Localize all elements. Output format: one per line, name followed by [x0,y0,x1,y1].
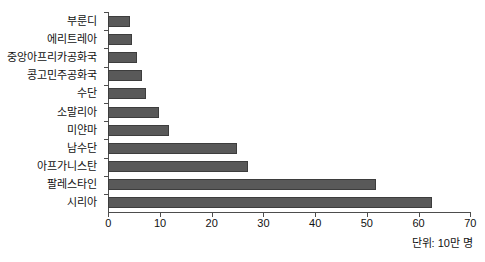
x-axis-tick [470,212,471,217]
y-axis-label: 수단 [0,85,103,103]
x-axis-tick-label: 20 [206,218,218,229]
x-axis-tick-label: 60 [412,218,424,229]
bar-chart: 부룬디 에리트레아 중앙아프리카공화국 콩고민주공화국 수단 소말리아 미얀마 … [0,0,485,262]
bar-row [108,139,470,157]
x-axis-tick-label: 40 [309,218,321,229]
bar-row [108,194,470,212]
bar-row [108,30,470,48]
y-axis-category-labels: 부룬디 에리트레아 중앙아프리카공화국 콩고민주공화국 수단 소말리아 미얀마 … [0,12,103,212]
bar [108,179,376,190]
plot-area [108,12,470,212]
bar-row [108,121,470,139]
x-axis-tick-label: 0 [105,218,111,229]
bar-rows [108,12,470,212]
bar [108,161,248,172]
bar-row [108,12,470,30]
y-axis-label: 팔레스타인 [0,176,103,194]
x-axis-tick [419,212,420,217]
y-axis-label: 아프가니스탄 [0,158,103,176]
bar [108,197,431,208]
x-axis-tick [160,212,161,217]
x-axis-tick-label: 30 [257,218,269,229]
x-axis-tick [315,212,316,217]
bar [108,107,159,118]
x-axis-tick-label: 70 [464,218,476,229]
y-axis-label: 시리아 [0,194,103,212]
y-axis-label: 콩고민주공화국 [0,67,103,85]
y-axis-label: 에리트레아 [0,30,103,48]
y-axis-label: 부룬디 [0,12,103,30]
x-axis-tick [367,212,368,217]
bar [108,70,142,81]
bar [108,52,137,63]
bar-row [108,48,470,66]
x-axis-tick [108,212,109,217]
x-axis-tick [212,212,213,217]
bar-row [108,158,470,176]
x-axis-tick [263,212,264,217]
bar [108,16,130,27]
bar-row [108,176,470,194]
y-axis-label: 중앙아프리카공화국 [0,48,103,66]
bar [108,143,236,154]
y-axis-label: 소말리아 [0,103,103,121]
bar-row [108,85,470,103]
bar-row [108,67,470,85]
bar-row [108,103,470,121]
x-axis-tick-label: 50 [361,218,373,229]
y-axis-label: 미얀마 [0,121,103,139]
bar [108,125,169,136]
bar [108,88,146,99]
y-axis-label: 남수단 [0,139,103,157]
unit-annotation: 단위: 10만 명 [412,238,473,249]
bar [108,34,132,45]
x-axis-tick-label: 10 [154,218,166,229]
